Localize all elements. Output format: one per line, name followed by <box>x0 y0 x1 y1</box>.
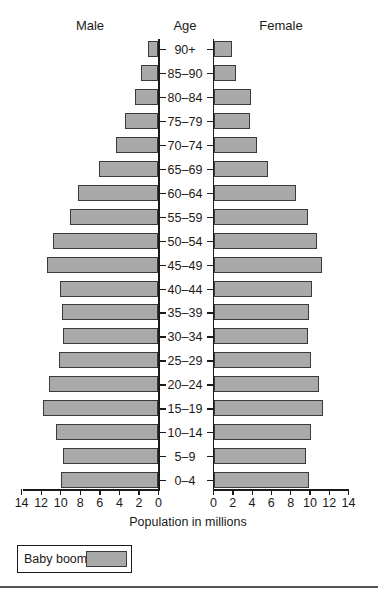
female-bar <box>214 352 311 368</box>
female-x-tick-label: 14 <box>342 496 356 510</box>
legend-label: Baby boom <box>24 552 87 566</box>
age-label: 65–69 <box>158 163 212 177</box>
male-bar <box>78 185 158 201</box>
age-label: 20–24 <box>158 378 212 392</box>
female-bar <box>214 328 308 344</box>
age-label: 50–54 <box>158 235 212 249</box>
bottom-divider <box>0 586 378 588</box>
female-x-tick-label: 4 <box>249 496 256 510</box>
female-bar <box>214 376 319 392</box>
female-bar <box>214 89 252 105</box>
male-bar <box>116 137 158 153</box>
male-bar <box>148 41 159 57</box>
male-x-tick-label: 14 <box>15 496 29 510</box>
female-bar <box>214 233 317 249</box>
male-x-tick-label: 2 <box>135 496 142 510</box>
female-bar <box>214 281 312 297</box>
male-bar <box>47 257 158 273</box>
male-bar <box>99 161 159 177</box>
female-x-tick-label: 6 <box>268 496 275 510</box>
male-x-tick <box>21 489 22 495</box>
female-x-tick <box>309 489 310 495</box>
age-label: 40–44 <box>158 283 212 297</box>
female-bar <box>214 161 269 177</box>
female-bar <box>214 137 257 153</box>
age-label: 15–19 <box>158 402 212 416</box>
female-bar <box>214 41 232 57</box>
age-label: 70–74 <box>158 139 212 153</box>
age-label: 25–29 <box>158 354 212 368</box>
male-bar <box>62 304 159 320</box>
male-x-tick <box>41 489 42 495</box>
female-x-tick <box>348 489 349 495</box>
female-bar <box>214 448 307 464</box>
age-label: 35–39 <box>158 306 212 320</box>
female-bar <box>214 113 251 129</box>
female-bar <box>214 424 311 440</box>
age-label: 45–49 <box>158 259 212 273</box>
male-bar <box>53 233 159 249</box>
female-bar <box>214 185 297 201</box>
male-bar <box>63 448 159 464</box>
male-bar <box>61 472 159 488</box>
male-x-tick-label: 0 <box>155 496 162 510</box>
female-bar <box>214 257 323 273</box>
age-label: 30–34 <box>158 330 212 344</box>
female-bar <box>214 209 308 225</box>
male-x-tick-label: 4 <box>116 496 123 510</box>
female-bar <box>214 304 309 320</box>
male-bar <box>135 89 158 105</box>
legend-swatch <box>86 551 127 567</box>
male-bar <box>60 281 159 297</box>
male-header: Male <box>76 18 104 33</box>
male-bar <box>49 376 159 392</box>
male-bar <box>70 209 158 225</box>
female-x-tick <box>329 489 330 495</box>
female-x-tick-label: 0 <box>210 496 217 510</box>
female-x-tick <box>213 489 214 495</box>
female-header: Female <box>259 18 302 33</box>
age-label: 75–79 <box>158 115 212 129</box>
legend: Baby boom <box>17 545 132 573</box>
age-label: 60–64 <box>158 187 212 201</box>
male-x-tick-label: 10 <box>54 496 68 510</box>
female-bar <box>214 400 324 416</box>
age-label: 10–14 <box>158 426 212 440</box>
female-x-tick <box>232 489 233 495</box>
male-bar <box>141 65 159 81</box>
male-x-tick <box>158 489 159 495</box>
female-x-tick-label: 12 <box>322 496 336 510</box>
female-x-tick <box>290 489 291 495</box>
age-label: 85–90 <box>158 67 212 81</box>
male-x-tick <box>119 489 120 495</box>
male-x-tick <box>138 489 139 495</box>
male-bar <box>63 328 159 344</box>
female-x-tick <box>252 489 253 495</box>
male-bar <box>125 113 158 129</box>
male-x-tick <box>60 489 61 495</box>
female-x-tick-label: 8 <box>287 496 294 510</box>
male-bar <box>59 352 159 368</box>
age-header: Age <box>173 18 196 33</box>
female-x-tick-label: 2 <box>229 496 236 510</box>
female-bar <box>214 65 236 81</box>
age-label: 90+ <box>158 43 212 57</box>
male-x-tick-label: 12 <box>34 496 48 510</box>
age-label: 5–9 <box>158 450 212 464</box>
x-axis-label: Population in millions <box>129 515 246 529</box>
female-x-tick-label: 10 <box>303 496 317 510</box>
male-bar <box>56 424 159 440</box>
female-x-tick <box>271 489 272 495</box>
male-x-tick <box>99 489 100 495</box>
age-label: 0–4 <box>158 474 212 488</box>
male-x-tick <box>80 489 81 495</box>
male-x-tick-label: 6 <box>96 496 103 510</box>
female-bar <box>214 472 309 488</box>
male-bar <box>43 400 158 416</box>
male-x-tick-label: 8 <box>77 496 84 510</box>
age-label: 55–59 <box>158 211 212 225</box>
age-label: 80–84 <box>158 91 212 105</box>
